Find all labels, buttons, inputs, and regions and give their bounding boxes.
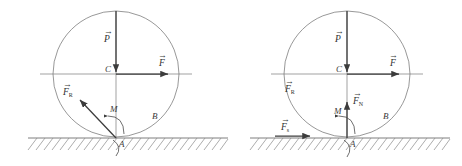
weight-accent-right: → [335,26,344,36]
diagram-canvas: P → F → FR → C M A B [0,0,462,166]
center-label-right: C [336,64,343,74]
physics-figure: P → F → FR → C M A B [0,0,462,166]
force-accent-right: → [389,50,398,60]
center-label-left: C [105,64,112,74]
contact-label-right: A [349,139,356,149]
left-diagram: P → F → FR → C M A B [28,11,228,156]
friction-accent-right: → [281,114,290,124]
moment-label-right: M [333,106,342,116]
rim-label-right: B [383,111,389,121]
reaction-accent-left: → [63,79,72,89]
ground-hatching-left [28,138,228,150]
moment-label-left: M [109,104,118,114]
normal-accent-right: → [353,88,362,98]
weight-accent-left: → [104,26,113,36]
contact-label-left: A [118,139,125,149]
right-diagram: P → F → FR → FN → Fs → C M A B [250,11,450,157]
reaction-accent-right: → [285,76,294,86]
rim-label-left: B [152,111,158,121]
force-accent-left: → [158,50,167,60]
